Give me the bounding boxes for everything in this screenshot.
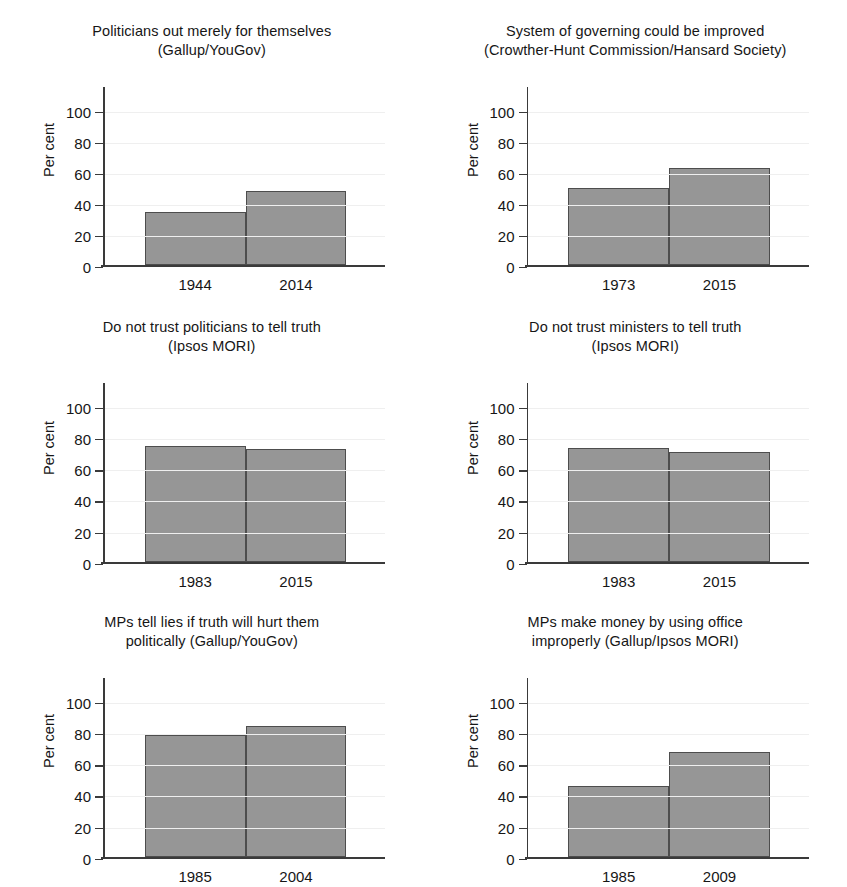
y-tick-100: [519, 408, 527, 409]
y-tick-label-0: 0: [506, 557, 514, 572]
plot-area-4: 1985 2004 100806040200: [103, 687, 381, 859]
y-tick-20: [95, 828, 103, 829]
bar-3-1[interactable]: [669, 452, 770, 562]
gridline: [105, 828, 385, 829]
y-tick-0: [519, 267, 527, 268]
y-tick-label-80: 80: [74, 135, 91, 150]
y-tick-0: [519, 564, 527, 565]
bar-5-1[interactable]: [669, 752, 770, 857]
y-tick-80: [95, 439, 103, 440]
gridline: [105, 734, 385, 735]
gridline: [528, 734, 808, 735]
y-axis-label-5: Per cent: [465, 714, 481, 768]
y-tick-label-0: 0: [506, 852, 514, 867]
x-tick-labels-4: 1985 2004: [105, 859, 381, 887]
bar-3-0[interactable]: [568, 448, 669, 563]
x-tick-label-1-1: 2015: [669, 276, 770, 293]
y-tick-80: [519, 143, 527, 144]
chart-panel-5: MPs make money by using office improperl…: [424, 595, 847, 887]
x-tick-label-5-0: 1985: [568, 868, 669, 885]
bars-container-3: [528, 392, 804, 562]
chart-panel-4: MPs tell lies if truth will hurt them po…: [0, 595, 424, 887]
gridline: [105, 174, 385, 175]
y-tick-label-40: 40: [74, 197, 91, 212]
y-axis-label-4: Per cent: [41, 714, 57, 768]
y-tick-20: [519, 828, 527, 829]
gridline: [105, 112, 385, 113]
y-tick-label-0: 0: [83, 557, 91, 572]
y-tick-100: [95, 112, 103, 113]
y-axis-label-3: Per cent: [465, 421, 481, 475]
bar-1-1[interactable]: [669, 168, 770, 265]
panel-title-4: MPs tell lies if truth will hurt them po…: [0, 613, 424, 651]
y-tick-0: [95, 564, 103, 565]
y-tick-label-0: 0: [83, 852, 91, 867]
y-tick-label-80: 80: [498, 135, 515, 150]
y-tick-60: [519, 174, 527, 175]
y-axis-label-0: Per cent: [41, 123, 57, 177]
gridline: [528, 174, 808, 175]
chart-figure: Politicians out merely for themselves (G…: [0, 0, 847, 887]
x-tick-label-0-0: 1944: [145, 276, 246, 293]
y-tick-label-60: 60: [498, 463, 515, 478]
chart-panel-0: Politicians out merely for themselves (G…: [0, 0, 424, 300]
y-tick-40: [519, 205, 527, 206]
y-tick-label-80: 80: [74, 431, 91, 446]
x-tick-label-1-0: 1973: [568, 276, 669, 293]
y-tick-80: [519, 734, 527, 735]
y-tick-20: [519, 533, 527, 534]
gridline: [105, 236, 385, 237]
y-tick-label-40: 40: [498, 789, 515, 804]
gridline: [528, 703, 808, 704]
x-tick-label-4-0: 1985: [145, 868, 246, 885]
y-tick-label-100: 100: [489, 695, 514, 710]
y-tick-20: [519, 236, 527, 237]
x-tick-labels-3: 1983 2015: [528, 564, 804, 594]
gridline: [105, 439, 385, 440]
bar-0-1[interactable]: [246, 191, 347, 265]
y-tick-label-20: 20: [498, 228, 515, 243]
y-tick-label-100: 100: [66, 400, 91, 415]
y-tick-40: [95, 796, 103, 797]
gridline: [105, 796, 385, 797]
gridline: [528, 439, 808, 440]
y-tick-0: [519, 859, 527, 860]
y-tick-label-20: 20: [74, 525, 91, 540]
y-tick-100: [95, 408, 103, 409]
y-tick-100: [95, 703, 103, 704]
bar-2-0[interactable]: [145, 446, 246, 562]
plot-area-1: 1973 2015 100806040200: [527, 96, 805, 267]
y-tick-100: [519, 112, 527, 113]
y-tick-label-40: 40: [74, 789, 91, 804]
chart-panel-1: System of governing could be improved (C…: [424, 0, 847, 300]
y-axis-label-2: Per cent: [41, 421, 57, 475]
plot-area-3: 1983 2015 100806040200: [527, 392, 805, 564]
bars-container-2: [105, 392, 381, 562]
y-tick-label-20: 20: [74, 228, 91, 243]
y-tick-label-80: 80: [498, 726, 515, 741]
gridline: [105, 205, 385, 206]
bar-1-0[interactable]: [568, 188, 669, 265]
panel-title-0: Politicians out merely for themselves (G…: [0, 22, 424, 60]
x-tick-labels-5: 1985 2009: [528, 859, 804, 887]
bar-0-0[interactable]: [145, 212, 246, 266]
bar-2-1[interactable]: [246, 449, 347, 562]
y-tick-40: [95, 205, 103, 206]
y-tick-60: [95, 470, 103, 471]
y-tick-0: [95, 859, 103, 860]
y-tick-20: [95, 533, 103, 534]
x-tick-labels-0: 1944 2014: [105, 267, 381, 297]
gridline: [528, 408, 808, 409]
gridline: [105, 703, 385, 704]
panel-title-5: MPs make money by using office improperl…: [424, 613, 847, 651]
bar-4-1[interactable]: [246, 726, 347, 858]
gridline: [105, 408, 385, 409]
y-tick-label-60: 60: [74, 166, 91, 181]
y-tick-label-40: 40: [74, 494, 91, 509]
y-tick-60: [95, 765, 103, 766]
gridline: [528, 470, 808, 471]
x-tick-label-3-1: 2015: [669, 573, 770, 590]
y-tick-label-100: 100: [489, 104, 514, 119]
gridline: [105, 533, 385, 534]
gridline: [528, 112, 808, 113]
